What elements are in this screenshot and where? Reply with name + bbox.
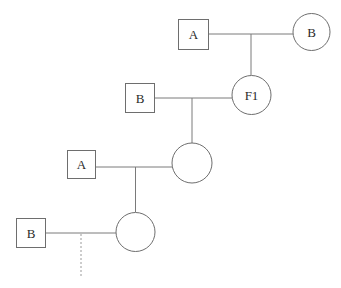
male-node-a-3: A	[68, 151, 96, 179]
female-node-gen3	[172, 143, 212, 183]
male-node-a-1: A	[179, 20, 209, 50]
generation-2: F1 B	[126, 76, 272, 144]
male-node-a-1-label: A	[189, 27, 199, 42]
female-node-b-1-label: B	[307, 25, 316, 40]
female-node-gen4	[116, 213, 155, 252]
male-node-a-3-label: A	[77, 157, 87, 172]
male-node-b-4-label: B	[27, 226, 36, 241]
generation-3: A	[68, 143, 213, 212]
female-node-b-1: B	[293, 14, 330, 51]
female-node-f1-label: F1	[245, 88, 259, 103]
generation-4: B	[17, 213, 156, 277]
male-node-b-4: B	[17, 219, 46, 248]
generation-1: A B	[179, 14, 331, 76]
female-node-f1: F1	[232, 76, 271, 115]
pedigree-diagram: A B F1 B A	[0, 0, 341, 288]
male-node-b-2: B	[126, 84, 155, 113]
male-node-b-2-label: B	[136, 91, 145, 106]
